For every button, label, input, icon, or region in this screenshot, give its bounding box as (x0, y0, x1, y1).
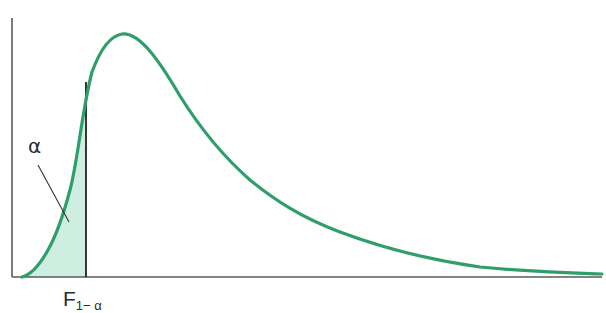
alpha-label: α (28, 134, 41, 158)
alpha-leader-line (38, 165, 69, 222)
critical-value-main: F (63, 287, 76, 310)
density-curve (22, 34, 602, 277)
critical-value-label: F1− α (63, 287, 102, 313)
shaded-alpha-region (22, 82, 86, 277)
critical-value-subscript: 1− α (76, 298, 102, 313)
f-distribution-chart (0, 0, 606, 313)
